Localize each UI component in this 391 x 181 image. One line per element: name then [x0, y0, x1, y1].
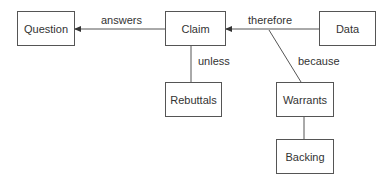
toulmin-argument-diagram: Question Claim Data Rebuttals Warrants B…: [0, 0, 391, 181]
node-rebuttals: Rebuttals: [165, 82, 222, 117]
node-claim: Claim: [165, 11, 226, 46]
label-unless: unless: [198, 55, 230, 67]
label-therefore: therefore: [248, 14, 292, 26]
label-because: because: [298, 55, 340, 67]
edge-because-line: [269, 30, 301, 82]
node-question: Question: [17, 11, 75, 46]
node-backing: Backing: [276, 139, 334, 174]
node-data: Data: [319, 11, 376, 46]
node-warrants: Warrants: [276, 82, 334, 117]
label-answers: answers: [101, 14, 142, 26]
